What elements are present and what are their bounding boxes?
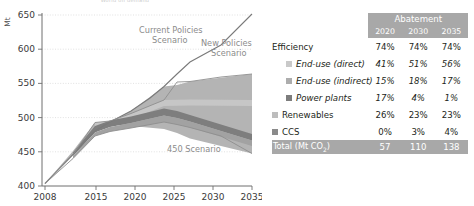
header-abatement-label: Abatement [368,13,468,26]
row-renewables-2030: 23% [402,106,435,123]
new-policies-annotation-line2: Scenario [211,48,247,58]
current-policies-annotation-line1: Current Policies [139,25,203,35]
table-row: Renewables 26% 23% 23% [272,106,468,123]
y-axis-unit-label: Mt [3,17,12,26]
legend-swatch-end-use-direct [286,61,292,67]
chart-y-ticks [38,15,42,186]
row-efficiency-2030: 74% [402,38,435,55]
legend-swatch-end-use-indirect [286,78,292,84]
x-tick-2030: 2030 [202,192,225,202]
row-end-use-direct-2020: 41% [368,55,401,72]
row-label-renewables: Renewables [272,106,368,123]
row-total-2035: 138 [435,140,468,154]
abatement-table-body: Efficiency 74% 74% 74% End-use (direct) … [272,38,468,154]
450-scenario-annotation: 450 Scenario [167,144,221,154]
row-end-use-indirect-2020: 15% [368,72,401,89]
row-power-plants-2020: 17% [368,89,401,106]
row-ccs-2020: 0% [368,123,401,140]
table-row: CCS 0% 3% 4% [272,123,468,140]
row-label-power-plants: Power plants [272,89,368,106]
header-empty-cell [272,13,368,26]
row-label-end-use-direct: End-use (direct) [272,55,368,72]
row-label-total: Total (Mt CO2) [272,140,368,154]
table-row: Power plants 17% 4% 1% [272,89,468,106]
table-row: Efficiency 74% 74% 74% [272,38,468,55]
row-power-plants-2030: 4% [402,89,435,106]
row-ccs-2035: 4% [435,123,468,140]
y-tick-600: 600 [18,44,35,54]
row-label-text: Power plants [296,93,351,103]
header-empty-cell-2 [272,26,368,38]
row-total-2030: 110 [402,140,435,154]
x-tick-2025: 2025 [163,192,186,202]
abatement-table-panel: Abatement 2020 2030 2035 Efficiency 74% … [272,13,468,154]
chart-x-ticks [45,186,252,190]
emissions-area-chart: 650 600 550 500 450 400 2008 2015 2020 2… [0,0,262,206]
row-efficiency-2020: 74% [368,38,401,55]
row-power-plants-2035: 1% [435,89,468,106]
table-row: End-use (indirect) 15% 18% 17% [272,72,468,89]
abatement-table: Abatement 2020 2030 2035 Efficiency 74% … [272,13,468,154]
row-efficiency-2035: 74% [435,38,468,55]
row-end-use-indirect-2035: 17% [435,72,468,89]
y-tick-650: 650 [18,10,35,20]
row-renewables-2035: 23% [435,106,468,123]
row-label-text: CCS [282,127,299,137]
chart-panel: World oil demand [0,0,262,206]
table-row: End-use (direct) 41% 51% 56% [272,55,468,72]
row-renewables-2020: 26% [368,106,401,123]
new-policies-annotation-line1: New Policies [201,38,252,48]
row-end-use-direct-2030: 51% [402,55,435,72]
y-tick-550: 550 [18,78,35,88]
total-label-main: Total (Mt CO [273,141,323,151]
y-tick-400: 400 [18,181,35,191]
row-ccs-2030: 3% [402,123,435,140]
row-end-use-direct-2035: 56% [435,55,468,72]
row-label-ccs: CCS [272,123,368,140]
y-tick-500: 500 [18,113,35,123]
row-label-text: End-use (direct) [296,59,365,69]
legend-swatch-power-plants [286,95,292,101]
current-policies-annotation-line2: Scenario [152,35,188,45]
row-label-efficiency: Efficiency [272,38,368,55]
row-label-end-use-indirect: End-use (indirect) [272,72,368,89]
legend-swatch-renewables [272,112,278,118]
header-year-2035: 2035 [435,26,468,38]
abatement-table-head: Abatement 2020 2030 2035 [272,13,468,38]
row-end-use-indirect-2030: 18% [402,72,435,89]
header-year-2030: 2030 [402,26,435,38]
row-total-2020: 57 [368,140,401,154]
row-label-text: End-use (indirect) [296,76,373,86]
x-tick-2035: 2035 [241,192,262,202]
row-label-text: Renewables [282,110,334,120]
table-header-group-row: Abatement [272,13,468,26]
x-tick-2020: 2020 [124,192,147,202]
y-tick-450: 450 [18,147,35,157]
total-label-close: ) [327,141,330,151]
table-header-years-row: 2020 2030 2035 [272,26,468,38]
x-tick-2015: 2015 [85,192,108,202]
table-total-row: Total (Mt CO2) 57 110 138 [272,140,468,154]
legend-swatch-ccs [272,129,278,135]
header-year-2020: 2020 [368,26,401,38]
x-tick-2008: 2008 [34,192,57,202]
